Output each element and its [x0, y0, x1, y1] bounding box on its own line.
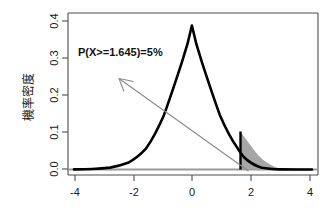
chart-figure: 機率密度 0.0 0.1 0.2 0.3 0.4	[0, 0, 336, 212]
y-tick-label: 0.1	[48, 124, 60, 139]
y-tick-label: 0.0	[48, 161, 60, 176]
y-axis-title: 機率密度	[21, 73, 36, 121]
y-tick-label: 0.2	[48, 87, 60, 102]
x-tick-label: 4	[307, 186, 313, 198]
x-tick-label: -2	[129, 186, 139, 198]
normal-distribution-plot: 機率密度 0.0 0.1 0.2 0.3 0.4	[0, 0, 336, 212]
x-tick-label: -4	[70, 186, 80, 198]
y-tick-label: 0.3	[48, 50, 60, 65]
tail-probability-label: P(X>=1.645)=5%	[78, 46, 163, 58]
x-tick-label: 2	[248, 186, 254, 198]
y-tick-label: 0.4	[48, 13, 60, 28]
x-tick-label: 0	[189, 186, 195, 198]
